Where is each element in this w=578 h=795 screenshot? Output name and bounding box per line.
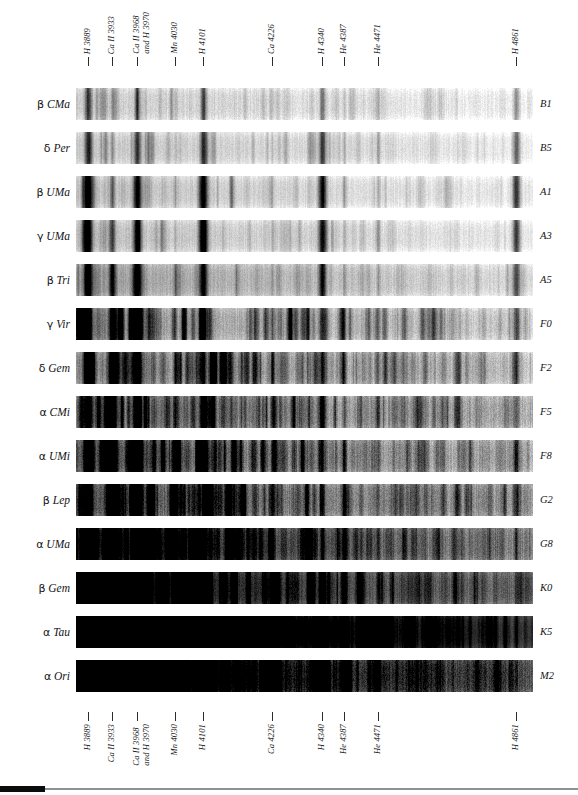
star-name-label: δ Per — [44, 132, 70, 164]
spectrum-strip — [76, 176, 533, 208]
wavelength-tick-ca-ii-3933 — [112, 57, 113, 66]
spectrum-row: β CMaB1 — [0, 88, 578, 120]
spectrum-image — [76, 308, 533, 340]
wavelength-tick-mn-4030 — [175, 57, 176, 66]
spectral-type-label: A5 — [540, 264, 552, 296]
wavelength-label-text: Ca 4226 — [267, 724, 277, 754]
star-constellation: UMa — [46, 186, 70, 198]
star-name-label: β Lep — [43, 484, 70, 516]
wavelength-label-text: H 4101 — [198, 28, 208, 54]
star-greek-letter: β — [37, 98, 44, 111]
spectrum-row: δ GemF2 — [0, 352, 578, 384]
spectrum-row: γ VirF0 — [0, 308, 578, 340]
star-constellation: Tau — [53, 626, 70, 638]
wavelength-labels-top: H 3889Ca II 3933Ca II 3968 and H 3970Mn … — [0, 2, 578, 66]
wavelength-tick-ca-4226 — [272, 57, 273, 66]
wavelength-tick-he-4387 — [344, 712, 345, 721]
spectrum-image — [76, 484, 533, 516]
star-name-label: γ UMa — [37, 220, 70, 252]
star-greek-letter: δ — [39, 362, 46, 375]
spectral-type-label: B5 — [540, 132, 552, 164]
spectrum-row: α OriM2 — [0, 660, 578, 692]
wavelength-tick-ca-ii-3933 — [112, 712, 113, 721]
wavelength-label-text: He 4387 — [339, 24, 349, 54]
star-constellation: CMa — [47, 98, 70, 110]
wavelength-tick-ca-ii-3968 — [137, 712, 138, 721]
star-greek-letter: α — [44, 670, 51, 683]
spectrum-strip — [76, 220, 533, 252]
wavelength-tick-h-4340 — [322, 712, 323, 721]
wavelength-label-text: H 4340 — [317, 28, 327, 54]
star-greek-letter: α — [39, 406, 46, 419]
wavelength-label-text: Ca 4226 — [267, 24, 277, 54]
wavelength-labels-bottom: H 3889Ca II 3933Ca II 3968 and H 3970Mn … — [0, 712, 578, 776]
spectrum-image — [76, 176, 533, 208]
spectral-type-label: G8 — [540, 528, 553, 560]
star-name-label: β Tri — [47, 264, 70, 296]
spectrum-image — [76, 528, 533, 560]
star-name-label: α UMa — [36, 528, 70, 560]
star-greek-letter: γ — [47, 318, 54, 331]
star-constellation: Vir — [56, 318, 70, 330]
spectral-type-label: K0 — [540, 572, 552, 604]
spectral-type-label: F2 — [540, 352, 552, 384]
wavelength-tick-he-4471 — [378, 57, 379, 66]
star-greek-letter: α — [36, 538, 43, 551]
star-constellation: Ori — [54, 670, 70, 682]
star-greek-letter: α — [43, 626, 50, 639]
star-name-label: δ Gem — [39, 352, 70, 384]
spectrum-strip — [76, 352, 533, 384]
spectral-type-label: M2 — [540, 660, 554, 692]
spectral-type-label: G2 — [540, 484, 553, 516]
star-greek-letter: γ — [37, 230, 44, 243]
spectrum-image — [76, 88, 533, 120]
spectrum-strip — [76, 572, 533, 604]
spectral-type-label: A1 — [540, 176, 552, 208]
spectrum-image — [76, 220, 533, 252]
wavelength-label-text: H 3889 — [83, 28, 93, 54]
spectrum-image — [76, 264, 533, 296]
star-constellation: Gem — [48, 582, 70, 594]
star-constellation: UMa — [46, 538, 70, 550]
spectrum-image — [76, 440, 533, 472]
spectrum-image — [76, 572, 533, 604]
wavelength-label-text: He 4471 — [373, 724, 383, 754]
spectral-type-label: K5 — [540, 616, 552, 648]
spectrum-strip — [76, 528, 533, 560]
wavelength-label-text: Ca II 3933 — [107, 724, 117, 762]
star-name-label: β UMa — [36, 176, 70, 208]
star-constellation: Per — [53, 142, 70, 154]
star-greek-letter: β — [47, 274, 54, 287]
spectrum-strip — [76, 616, 533, 648]
wavelength-label-text: Ca II 3968 and H 3970 — [132, 12, 151, 54]
wavelength-tick-h-3889 — [88, 712, 89, 721]
star-constellation: UMi — [49, 450, 70, 462]
spectrum-image — [76, 352, 533, 384]
footer-rule — [45, 788, 578, 790]
wavelength-label-text: H 4340 — [317, 724, 327, 750]
star-constellation: Lep — [53, 494, 70, 506]
spectrum-row: δ PerB5 — [0, 132, 578, 164]
spectrum-row: α UMiF8 — [0, 440, 578, 472]
spectrum-row: β UMaA1 — [0, 176, 578, 208]
star-constellation: Gem — [48, 362, 70, 374]
star-greek-letter: β — [43, 494, 50, 507]
spectrum-strip — [76, 396, 533, 428]
wavelength-tick-ca-4226 — [272, 712, 273, 721]
spectral-type-label: A3 — [540, 220, 552, 252]
star-constellation: Tri — [57, 274, 70, 286]
spectrum-strip — [76, 308, 533, 340]
spectrum-row: β GemK0 — [0, 572, 578, 604]
wavelength-label-text: Mn 4030 — [170, 22, 180, 54]
spectrum-strip — [76, 484, 533, 516]
star-greek-letter: β — [36, 186, 43, 199]
star-constellation: UMa — [46, 230, 70, 242]
wavelength-tick-he-4387 — [344, 57, 345, 66]
star-name-label: α Tau — [43, 616, 70, 648]
wavelength-label-text: H 3889 — [83, 724, 93, 750]
wavelength-label-text: Mn 4030 — [170, 724, 180, 756]
spectrum-strip — [76, 88, 533, 120]
spectrum-row: γ UMaA3 — [0, 220, 578, 252]
wavelength-tick-h-3889 — [88, 57, 89, 66]
star-name-label: α UMi — [39, 440, 70, 472]
